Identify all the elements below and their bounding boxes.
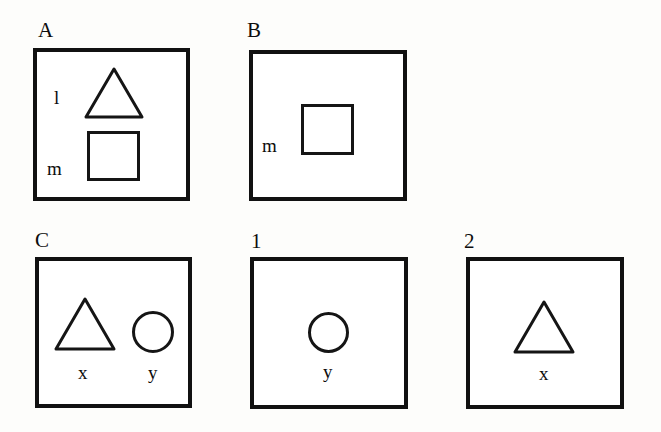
panel-2-caption: 2 [464, 231, 475, 252]
panel-a-shape-label-m: m [47, 159, 62, 178]
triangle-shape [84, 67, 144, 119]
panel-c-caption: C [35, 230, 49, 251]
figure-root: AlmBmCxy1y2x [0, 0, 661, 432]
panel-c-shape-label-y: y [148, 363, 158, 382]
circle-shape [132, 311, 174, 353]
panel-2-shape-label-x: x [539, 364, 549, 383]
panel-1-shape-label-y: y [323, 362, 333, 381]
triangle-shape [54, 297, 116, 351]
panel-c-shape-label-x: x [78, 363, 88, 382]
panel-b-shape-label-m: m [262, 136, 277, 155]
square-shape [301, 104, 354, 155]
triangle-shape [513, 300, 575, 354]
panel-b-caption: B [247, 20, 261, 41]
panel-a-caption: A [38, 20, 53, 41]
panel-a-shape-label-l: l [54, 88, 59, 107]
panel-1-caption: 1 [251, 231, 262, 252]
circle-shape [308, 312, 349, 353]
square-shape [87, 131, 140, 181]
